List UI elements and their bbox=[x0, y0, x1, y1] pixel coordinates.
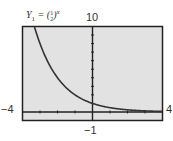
calculator-graph bbox=[0, 0, 173, 141]
